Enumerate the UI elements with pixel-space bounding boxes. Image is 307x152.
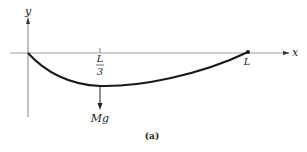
- x-axis-label: x: [292, 46, 299, 59]
- end-label: L: [243, 56, 251, 67]
- third-numerator: L: [96, 53, 104, 64]
- figure-caption: (a): [145, 131, 159, 141]
- down-arrow-icon: [98, 103, 103, 110]
- y-arrow-icon: [26, 17, 30, 24]
- third-denominator: 3: [97, 66, 103, 77]
- force-arrow: [98, 86, 103, 110]
- y-axis-label: y: [24, 5, 32, 18]
- x-arrow-icon: [283, 51, 290, 55]
- y-axis: [26, 17, 30, 117]
- deflection-curve: [28, 52, 248, 86]
- force-label: Mg: [90, 112, 109, 125]
- beam-deflection-diagram: y x L 3 L Mg (a): [0, 0, 307, 152]
- end-point: [246, 50, 250, 54]
